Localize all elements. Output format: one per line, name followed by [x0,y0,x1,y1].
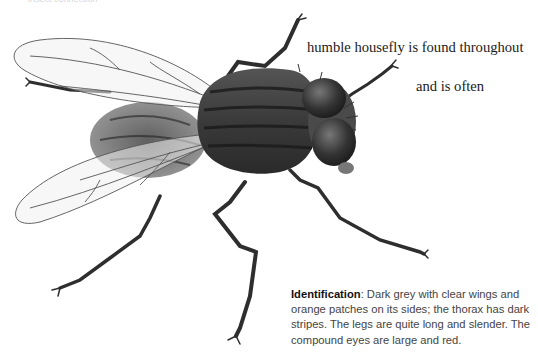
description-line: humble housefly is found throughout [307,38,523,57]
page: insect connection [0,0,538,362]
identification-line-3: stripes. The legs are quite long and sle… [291,317,531,332]
mouthparts [338,162,354,174]
identification-line-4: compound eyes are large and red. [291,333,531,348]
thorax [197,68,318,174]
compound-eye-bottom [312,118,356,166]
compound-eye-top [302,78,346,118]
identification-line-2: orange patches on its sides; the thorax … [291,302,531,317]
identification-text: Dark grey with clear wings and [364,288,519,300]
description-line: and is often [416,77,484,96]
identification-label: Identification [291,288,361,300]
identification-box: Identification: Dark grey with clear win… [291,287,531,348]
identification-line-1: Identification: Dark grey with clear win… [291,287,531,302]
